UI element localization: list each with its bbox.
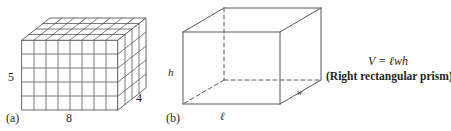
volume-formula-block: V = ℓwh (Right rectangular prism) (326, 54, 450, 83)
volume-formula-caption: (Right rectangular prism) (326, 69, 450, 83)
figure-b-height-label: h (168, 66, 174, 78)
figure-b-caption: (b) (166, 111, 180, 126)
volume-formula-equation: V = ℓwh (326, 54, 450, 69)
figure-panel: 5 8 4 (a) (0, 0, 451, 131)
top-face-outline (183, 8, 321, 32)
figure-b-length-label: ℓ (220, 110, 225, 122)
figure-b-width-label: w (297, 88, 302, 97)
front-face-outline (183, 32, 280, 104)
